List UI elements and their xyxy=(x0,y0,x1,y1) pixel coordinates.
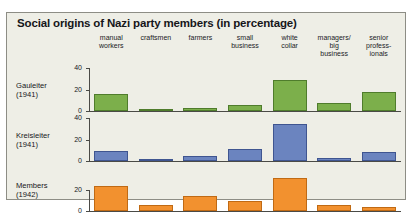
panel-0: Gauleiter (1941)02040 xyxy=(7,68,407,119)
bar-2-4 xyxy=(273,178,307,211)
column-header-0: manual workers xyxy=(89,34,134,50)
bar-1-1 xyxy=(139,159,173,161)
chart-title: Social origins of Nazi party members (in… xyxy=(17,17,297,29)
column-headers: manual workerscraftsmenfarmerssmall busi… xyxy=(89,34,401,66)
x-axis-1 xyxy=(89,161,401,162)
y-tick-label-2-1: 20 xyxy=(64,186,82,193)
y-tick-2-0 xyxy=(86,211,89,212)
y-tick-1-1 xyxy=(86,140,89,141)
y-tick-0-1 xyxy=(86,90,89,91)
panel-label-1: Kreisleiter (1941) xyxy=(16,131,50,149)
column-header-2: farmers xyxy=(178,34,223,42)
y-tick-label-1-0: 0 xyxy=(64,157,82,164)
bar-1-0 xyxy=(94,151,128,161)
panel-1: Kreisleiter (1941)02040 xyxy=(7,118,407,169)
y-tick-label-0-2: 40 xyxy=(64,64,82,71)
y-axis-0 xyxy=(89,68,90,111)
x-axis-0 xyxy=(89,111,401,112)
column-header-6: senior profess- ionals xyxy=(356,34,401,59)
y-tick-label-1-2: 40 xyxy=(64,114,82,121)
bar-2-6 xyxy=(362,207,396,211)
bar-2-0 xyxy=(94,186,128,211)
panel-label-2: Members (1942) xyxy=(16,181,48,199)
bar-1-2 xyxy=(183,156,217,161)
column-header-3: small business xyxy=(223,34,268,50)
bar-1-5 xyxy=(317,158,351,161)
y-tick-0-0 xyxy=(86,111,89,112)
bar-1-3 xyxy=(228,149,262,161)
bar-0-4 xyxy=(273,80,307,111)
column-header-1: craftsmen xyxy=(134,34,179,42)
bar-2-3 xyxy=(228,201,262,211)
bar-0-2 xyxy=(183,108,217,111)
x-axis-2 xyxy=(89,211,401,212)
panel-2: Members (1942)020 xyxy=(7,168,407,217)
bar-0-0 xyxy=(94,94,128,111)
bar-2-2 xyxy=(183,196,217,211)
plot-area-1: 02040 xyxy=(89,118,401,161)
chart-figure: Social origins of Nazi party members (in… xyxy=(6,12,406,200)
panel-label-0: Gauleiter (1941) xyxy=(16,81,47,99)
y-tick-2-1 xyxy=(86,190,89,191)
bar-0-1 xyxy=(139,109,173,111)
bar-2-1 xyxy=(139,205,173,211)
plot-area-2: 020 xyxy=(89,168,401,211)
bar-2-5 xyxy=(317,205,351,211)
column-header-4: white collar xyxy=(267,34,312,50)
y-axis-1 xyxy=(89,118,90,161)
bar-0-3 xyxy=(228,105,262,111)
bar-1-6 xyxy=(362,152,396,161)
bar-0-5 xyxy=(317,103,351,111)
y-tick-0-2 xyxy=(86,68,89,69)
y-tick-label-1-1: 20 xyxy=(64,136,82,143)
y-axis-2 xyxy=(89,190,90,212)
column-header-5: managers/ big business xyxy=(312,34,357,59)
bar-1-4 xyxy=(273,124,307,161)
y-tick-label-2-0: 0 xyxy=(64,207,82,214)
y-tick-label-0-1: 20 xyxy=(64,86,82,93)
y-tick-1-2 xyxy=(86,118,89,119)
plot-area-0: 02040 xyxy=(89,68,401,111)
y-tick-1-0 xyxy=(86,161,89,162)
y-tick-label-0-0: 0 xyxy=(64,107,82,114)
bar-0-6 xyxy=(362,92,396,111)
